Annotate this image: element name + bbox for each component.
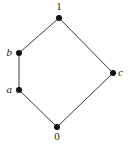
edge-bottom-a	[19, 90, 57, 127]
label-top: 1	[56, 0, 62, 12]
edge-b-top	[19, 18, 59, 53]
hasse-diagram: 1bac0	[0, 0, 132, 144]
nodes	[16, 15, 116, 130]
labels: 1bac0	[7, 0, 124, 142]
edges	[19, 18, 113, 127]
node-top	[56, 15, 62, 21]
node-c	[110, 70, 116, 76]
edge-c-top	[59, 18, 113, 73]
label-c: c	[118, 66, 123, 78]
label-b: b	[7, 46, 13, 58]
node-b	[16, 50, 22, 56]
label-a: a	[7, 83, 13, 95]
label-bottom: 0	[54, 130, 60, 142]
node-a	[16, 87, 22, 93]
edge-bottom-c	[57, 73, 113, 127]
